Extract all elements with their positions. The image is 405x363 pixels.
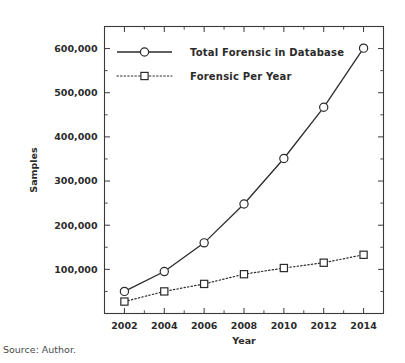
y-tick-label: 400,000 [54,131,98,142]
data-point-0 [320,103,328,111]
x-tick-label: 2008 [231,320,258,331]
y-tick-label: 600,000 [54,43,98,54]
legend-marker-1 [141,72,148,79]
x-tick-label: 2014 [350,320,377,331]
data-point-1 [280,264,287,271]
data-point-1 [121,298,128,305]
legend-label-0: Total Forensic in Database [190,47,344,58]
series-line-0 [124,48,363,291]
legend-marker-0 [140,48,148,56]
legend-label-1: Forensic Per Year [190,71,292,82]
x-tick-label: 2012 [310,320,336,331]
data-point-0 [280,154,288,162]
data-point-0 [240,200,248,208]
y-tick-label: 500,000 [54,87,98,98]
data-point-0 [200,239,208,247]
data-point-1 [360,251,367,258]
x-tick-label: 2010 [271,320,298,331]
data-point-0 [160,267,168,275]
x-tick-label: 2002 [111,320,137,331]
x-axis-title: Year [231,335,256,346]
data-point-1 [161,288,168,295]
data-point-0 [120,287,128,295]
chart-figure: 100,000200,000300,000400,000500,000600,0… [0,0,405,363]
data-point-1 [320,259,327,266]
data-point-1 [240,271,247,278]
line-chart: 100,000200,000300,000400,000500,000600,0… [0,0,405,363]
data-point-1 [201,280,208,287]
x-tick-label: 2004 [151,320,178,331]
y-tick-label: 300,000 [54,175,98,186]
y-tick-label: 200,000 [54,220,98,231]
source-note: Source: Author. [3,344,76,355]
data-point-0 [359,44,367,52]
x-tick-label: 2006 [191,320,218,331]
y-axis-title: Samples [28,147,39,193]
y-tick-label: 100,000 [54,264,98,275]
